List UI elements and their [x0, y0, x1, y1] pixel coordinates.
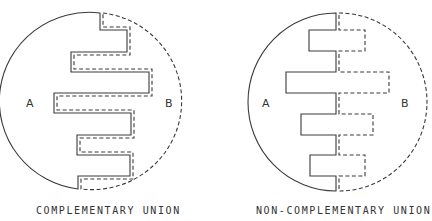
label-a: A: [262, 97, 270, 110]
union-diagram: A B COMPLEMENTARY UNION A B NON-COMPLEME…: [0, 0, 432, 221]
label-b: B: [165, 97, 173, 110]
region-b-boundary: [57, 13, 182, 190]
caption: COMPLEMENTARY UNION: [36, 205, 181, 216]
label-b: B: [401, 97, 409, 110]
region-b-boundary: [339, 13, 427, 191]
label-a: A: [26, 97, 34, 110]
complementary-union-panel: A B COMPLEMENTARY UNION: [0, 12, 182, 216]
caption: NON-COMPLEMENTARY UNION: [256, 205, 431, 216]
non-complementary-union-panel: A B NON-COMPLEMENTARY UNION: [248, 13, 431, 216]
region-a-boundary: [0, 12, 149, 189]
